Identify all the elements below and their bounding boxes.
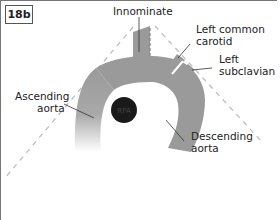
- innominate-artery: [133, 26, 150, 60]
- label-left-common-carotid-line2: carotid: [196, 35, 232, 47]
- label-innominate: Innominate: [113, 5, 173, 17]
- label-left-subclavian-line2: subclavian: [219, 65, 275, 77]
- label-ascending-aorta-line2: aorta: [37, 102, 65, 114]
- leader-carotid: [178, 44, 190, 58]
- label-left-subclavian-line1: Left: [219, 53, 239, 65]
- leader-subclavian: [192, 68, 212, 70]
- figure-label: 18b: [5, 5, 33, 24]
- label-descending-aorta-line1: Descending: [191, 130, 253, 142]
- label-descending-aorta-line2: aorta: [191, 142, 219, 154]
- label-ascending-aorta-line1: Ascending: [15, 90, 69, 102]
- rpa-label: RPA: [117, 107, 131, 115]
- label-left-common-carotid-line1: Left common: [196, 23, 265, 35]
